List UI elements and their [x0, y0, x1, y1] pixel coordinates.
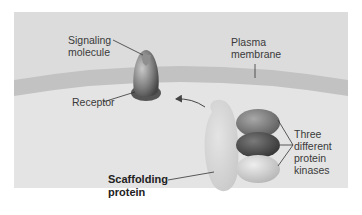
kinase-middle-icon — [236, 132, 280, 158]
scaffolding-protein-diagram: Signaling molecule Plasma membrane Recep… — [0, 0, 362, 215]
three-kinases-label: Three different protein kinases — [294, 128, 332, 176]
plasma-membrane-label: Plasma membrane — [231, 36, 281, 60]
receptor-label: Receptor — [72, 96, 115, 108]
kinase-bottom-icon — [236, 155, 280, 183]
scaffolding-protein-label: Scaffolding protein — [108, 173, 168, 199]
diagram-canvas — [0, 0, 362, 215]
signaling-molecule-label: Signaling molecule — [68, 34, 111, 58]
